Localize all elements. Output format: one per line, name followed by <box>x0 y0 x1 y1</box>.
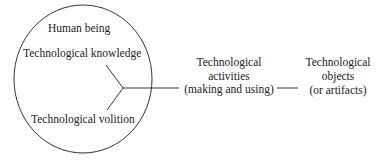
volition-label: Technological volition <box>31 112 135 126</box>
objects-line3: (or artifacts) <box>300 83 376 97</box>
knowledge-label: Technological knowledge <box>23 46 141 60</box>
objects-label: Technological objects (or artifacts) <box>300 55 376 97</box>
activities-label: Technological activities <box>180 55 278 83</box>
objects-line1: Technological <box>300 55 376 69</box>
objects-line2: objects <box>300 69 376 83</box>
human-being-label: Human being <box>48 21 110 35</box>
knowledge-arm <box>106 65 123 88</box>
activities-line1: Technological <box>180 55 278 69</box>
activities-line3: (making and using) <box>180 82 278 96</box>
volition-arm <box>107 88 123 110</box>
activities-line2: activities <box>180 69 278 83</box>
